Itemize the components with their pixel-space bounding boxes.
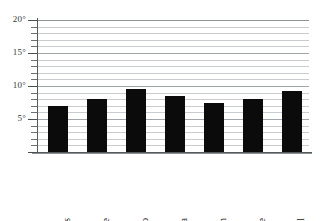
bar [126,89,146,152]
bar [282,91,302,152]
bar [243,99,263,152]
bar [165,96,185,152]
x-axis-tick-label: Harwich [218,218,228,221]
y-axis-major-tick [28,53,37,54]
y-axis-tick-label: 5° [0,113,26,123]
bars-group [37,20,309,152]
bar [87,99,107,152]
y-axis-tick-label: 20° [0,14,26,24]
x-axis-tick-label: Sligo [140,218,150,221]
x-axis-tick-label: St Andrews [62,218,72,221]
x-axis-tick-label: Swansea [179,218,189,221]
y-axis-major-tick [28,20,37,21]
y-axis-tick-label: 15° [0,47,26,57]
y-axis-major-tick [28,86,37,87]
bar-chart: 20°15°10°5° St AndrewsLarneSligoSwanseaH… [0,0,325,221]
bar [204,103,224,153]
x-axis-tick-label: St Austell [296,218,306,221]
y-axis-major-tick [28,152,37,153]
bar [48,106,68,152]
x-axis-tick-labels: St AndrewsLarneSligoSwanseaHarwichEastbo… [37,154,309,221]
y-axis-tick-labels: 20°15°10°5° [0,0,26,221]
y-axis-tick-label: 10° [0,80,26,90]
x-axis-tick-label: Eastbourne [257,218,267,221]
x-axis-tick-label: Larne [101,218,111,221]
y-axis-major-tick [28,119,37,120]
